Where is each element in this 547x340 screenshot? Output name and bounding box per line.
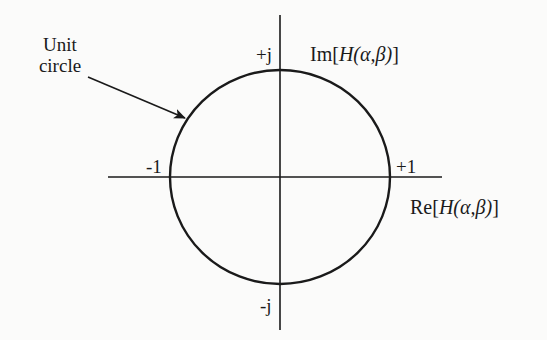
imaginary-axis-label: Im[H(α,β)]: [310, 44, 399, 64]
re-prefix: Re[: [410, 196, 439, 218]
real-axis-label: Re[H(α,β)]: [410, 197, 499, 217]
tick-minus-j: -j: [260, 296, 272, 315]
tick-plus-j: +j: [256, 45, 272, 64]
annotation-line-1: Unit: [30, 35, 90, 54]
annotation-arrow: [88, 77, 185, 118]
re-func: H: [439, 196, 453, 218]
re-args: (α,β): [453, 196, 492, 218]
im-suffix: ]: [392, 43, 399, 65]
annotation-line-2: circle: [30, 56, 90, 75]
diagram-canvas: Unit circle +j -j +1 -1 Im[H(α,β)] Re[H(…: [0, 0, 547, 340]
im-prefix: Im[: [310, 43, 339, 65]
im-func: H: [339, 43, 353, 65]
tick-plus-one: +1: [396, 157, 416, 176]
tick-minus-one: -1: [146, 157, 162, 176]
unit-circle-annotation: Unit circle: [30, 35, 90, 75]
im-args: (α,β): [353, 43, 392, 65]
re-suffix: ]: [492, 196, 499, 218]
